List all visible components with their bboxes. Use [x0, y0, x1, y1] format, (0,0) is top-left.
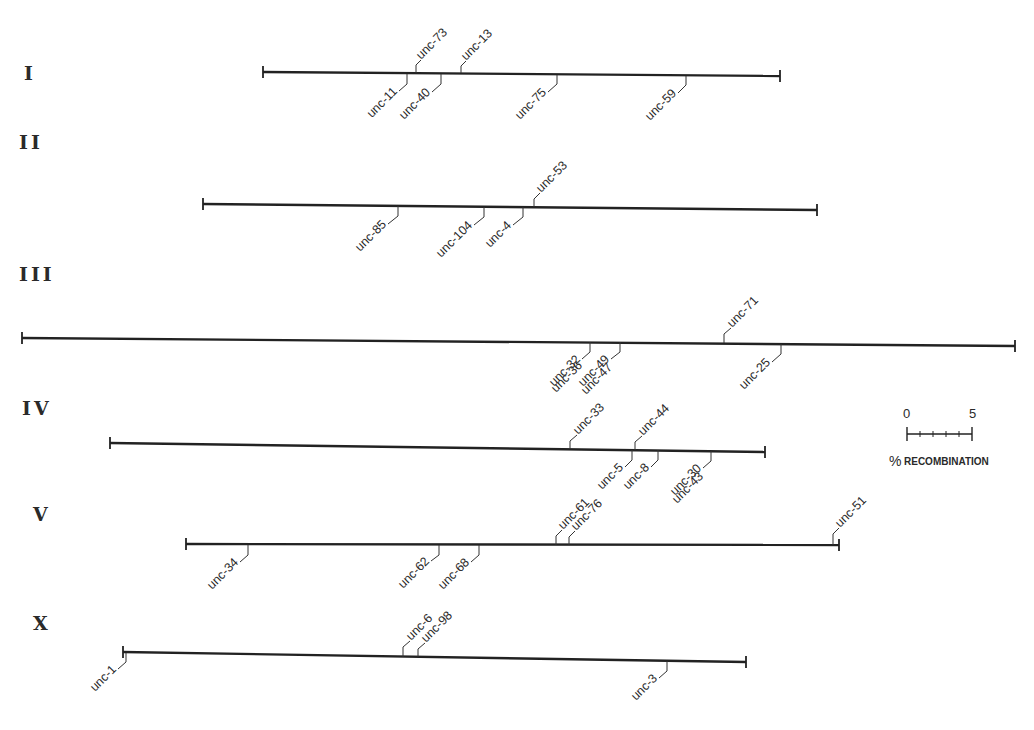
chromosome-line — [203, 204, 817, 210]
gene-marker — [569, 531, 575, 545]
gene-marker — [651, 450, 658, 467]
gene-marker — [431, 545, 439, 561]
gene-label: unc-62 — [395, 554, 432, 591]
gene-marker — [432, 74, 441, 92]
chromosome-line — [186, 544, 839, 545]
chromosome-X: X unc-6 unc-98 unc-1 unc-3 — [33, 608, 746, 703]
chromosome-label: II — [19, 131, 43, 153]
gene-label: unc-53 — [533, 158, 570, 195]
gene-marker — [703, 451, 711, 468]
gene-marker — [659, 661, 667, 678]
chromosome-I: I unc-73 unc-13 unc-11 unc-40 unc-75 unc… — [24, 25, 780, 123]
scale-unit-symbol: % — [889, 453, 901, 469]
gene-label: unc-33 — [570, 400, 607, 437]
chromosome-label: I — [24, 62, 36, 84]
gene-marker — [240, 545, 248, 562]
gene-marker — [611, 342, 620, 359]
chromosome-label: IV — [22, 397, 52, 419]
chromosome-label: III — [19, 263, 55, 285]
chromosome-IV: IV unc-33 unc-44 unc-5 unc-8 unc-30 unc-… — [22, 397, 765, 506]
gene-marker — [399, 74, 407, 91]
gene-marker — [678, 76, 686, 93]
gene-label: unc-34 — [204, 555, 241, 592]
gene-marker — [403, 641, 410, 657]
gene-label: unc-8 — [620, 460, 652, 492]
gene-marker — [635, 436, 642, 450]
gene-marker — [570, 435, 577, 449]
gene-label: unc-11 — [364, 84, 400, 120]
linkage-map: I unc-73 unc-13 unc-11 unc-40 unc-75 unc… — [0, 0, 1034, 730]
scale-unit-label: RECOMBINATION — [904, 456, 989, 467]
gene-marker — [118, 653, 126, 669]
chromosome-V: V unc-61 unc-76 unc-51 unc-34 unc-62 unc… — [32, 493, 869, 592]
gene-marker — [534, 193, 540, 207]
gene-label: unc-104 — [433, 218, 475, 260]
gene-marker — [461, 61, 466, 73]
gene-marker — [772, 344, 781, 362]
chromosome-label: X — [33, 612, 51, 634]
gene-label: unc-71 — [724, 293, 761, 330]
scale-min-label: 0 — [903, 406, 910, 421]
scale-bar: 0 5 % RECOMBINATION — [889, 406, 989, 469]
gene-label: unc-59 — [642, 86, 679, 123]
chromosome-line — [263, 72, 780, 76]
gene-marker — [471, 545, 479, 562]
gene-label: unc-4 — [482, 218, 514, 250]
chromosome-III: III unc-71 unc-32 unc-36 unc-49 unc-47 u… — [19, 263, 1015, 397]
chromosome-line — [123, 652, 746, 662]
gene-marker — [388, 206, 398, 224]
gene-marker — [474, 207, 484, 225]
gene-marker — [625, 450, 632, 467]
gene-marker — [418, 643, 425, 657]
scale-max-label: 5 — [969, 406, 976, 421]
gene-marker — [582, 342, 590, 359]
gene-label: unc-51 — [832, 493, 869, 530]
gene-label: unc-40 — [396, 85, 433, 122]
gene-label: unc-75 — [512, 85, 549, 122]
gene-label: unc-3 — [628, 671, 660, 703]
gene-label: unc-85 — [352, 217, 389, 254]
gene-marker — [548, 75, 557, 92]
gene-label: unc-73 — [413, 25, 450, 62]
gene-marker — [724, 328, 731, 343]
gene-label: unc-68 — [435, 555, 472, 592]
chromosome-II: II unc-53 unc-85 unc-104 unc-4 — [19, 131, 817, 260]
chromosome-line — [110, 443, 765, 452]
chromosome-label: V — [32, 503, 51, 525]
gene-label: unc-13 — [458, 26, 495, 63]
gene-marker — [416, 60, 421, 73]
gene-label: unc-44 — [635, 401, 672, 438]
chromosome-line — [22, 338, 1015, 346]
gene-label: unc-1 — [87, 662, 119, 694]
gene-label: unc-5 — [594, 460, 626, 492]
gene-marker — [513, 207, 523, 225]
gene-label: unc-25 — [736, 355, 773, 392]
gene-marker — [556, 530, 562, 545]
